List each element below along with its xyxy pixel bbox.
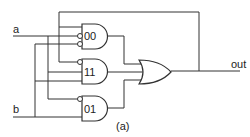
- and-gate-01: 01: [78, 80, 143, 121]
- and-gate-00: 00: [78, 24, 143, 64]
- inverter-bubble-icon: [78, 34, 83, 39]
- figure-caption: (a): [116, 120, 129, 132]
- gate-label: 01: [84, 103, 96, 115]
- inverter-bubble-icon: [78, 60, 83, 65]
- inverter-bubble-icon: [78, 42, 83, 47]
- input-a-wire: [13, 36, 82, 99]
- output-label: out: [231, 58, 246, 70]
- gate-label: 11: [84, 66, 95, 78]
- inverter-bubble-icon: [78, 97, 83, 102]
- input-b-label: b: [13, 103, 19, 115]
- or-gate: [139, 60, 240, 84]
- logic-circuit-diagram: 00 11 01 a b out (a): [0, 0, 250, 137]
- gate-label: 00: [84, 30, 96, 42]
- input-a-label: a: [13, 23, 20, 35]
